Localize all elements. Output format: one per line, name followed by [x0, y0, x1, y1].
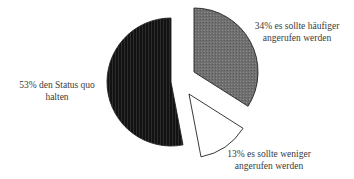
slice-label-status-quo-line2: halten: [45, 92, 68, 102]
pie-slice-status-quo: [107, 18, 183, 146]
slice-label-less-often-line2: angerufen werden: [235, 161, 304, 171]
slice-label-status-quo-line1: 53% den Status quo: [19, 80, 95, 90]
pie-slice-less-often: [189, 94, 243, 157]
slice-label-less-often-line1: 13% es sollte weniger: [227, 149, 311, 159]
slice-label-status-quo: 53% den Status quo halten: [19, 80, 95, 102]
pie-slices: [107, 8, 258, 157]
slice-label-less-often: 13% es sollte weniger angerufen werden: [227, 149, 311, 171]
slice-label-more-often-line2: angerufen werden: [263, 33, 332, 43]
slice-label-more-often: 34% es sollte häufiger angerufen werden: [255, 21, 341, 43]
pie-slice-more-often: [194, 8, 258, 106]
pie-chart: 34% es sollte häufiger angerufen werden …: [0, 0, 354, 179]
slice-label-more-often-line1: 34% es sollte häufiger: [255, 21, 341, 31]
